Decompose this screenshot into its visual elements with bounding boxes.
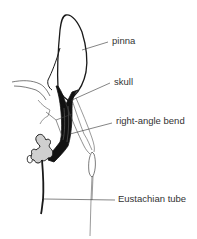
eustachian-leader: [44, 199, 115, 200]
descending-line: [90, 176, 93, 236]
label-pinna: pinna: [112, 36, 135, 46]
small-gland: [89, 152, 96, 177]
eustachian-tube: [41, 160, 43, 214]
label-eustachian-tube: Eustachian tube: [118, 194, 186, 204]
bend-leader: [70, 123, 112, 134]
pinna-outline: [58, 15, 87, 102]
skull-bone-lines: [38, 100, 50, 124]
scalp-lines: [12, 81, 50, 100]
label-skull: skull: [114, 77, 133, 87]
label-right-angle-bend: right-angle bend: [116, 116, 185, 126]
